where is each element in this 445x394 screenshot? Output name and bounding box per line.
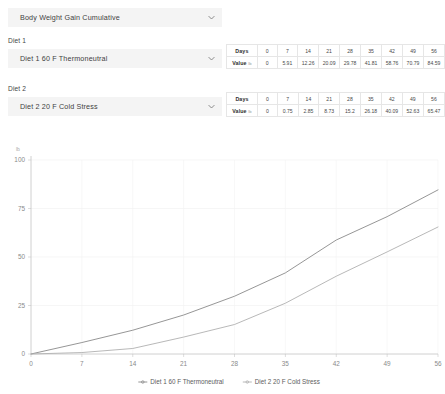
days-row-label: Days bbox=[227, 93, 258, 105]
value-cell: 40.09 bbox=[381, 105, 402, 117]
table-row-values: Value lb 00.752.858.7315.226.1840.0952.6… bbox=[227, 105, 445, 117]
value-cell: 65.47 bbox=[423, 105, 444, 117]
x-tick-label: 28 bbox=[231, 360, 239, 367]
chevron-down-icon bbox=[207, 13, 216, 22]
value-cell: 70.79 bbox=[402, 57, 423, 69]
value-cell: 15.2 bbox=[340, 105, 361, 117]
value-row-label: Value lb bbox=[227, 105, 258, 117]
days-cell: 35 bbox=[360, 93, 381, 105]
days-cell: 21 bbox=[319, 45, 340, 57]
y-tick-label: 100 bbox=[14, 156, 25, 163]
x-tick-label: 49 bbox=[384, 360, 392, 367]
diet2-select[interactable]: Diet 2 20 F Cold Stress bbox=[8, 97, 222, 116]
legend-item-1[interactable]: Diet 1 60 F Thermoneutral bbox=[138, 378, 223, 385]
days-cell: 56 bbox=[423, 45, 444, 57]
x-tick-label: 0 bbox=[29, 360, 33, 367]
legend-label: Diet 2 20 F Cold Stress bbox=[255, 378, 320, 385]
value-cell: 0 bbox=[257, 105, 277, 117]
value-cell: 26.18 bbox=[360, 105, 381, 117]
days-cell: 28 bbox=[340, 93, 361, 105]
days-cell: 42 bbox=[381, 93, 402, 105]
y-tick-label: 50 bbox=[18, 253, 26, 260]
value-cell: 5.91 bbox=[277, 57, 298, 69]
value-unit: lb bbox=[248, 61, 251, 66]
x-tick-label: 14 bbox=[129, 360, 137, 367]
value-cell: 58.76 bbox=[382, 57, 403, 69]
y-tick-label: 75 bbox=[18, 205, 26, 212]
value-cell: 12.26 bbox=[298, 57, 319, 69]
diet2-select-value: Diet 2 20 F Cold Stress bbox=[20, 102, 207, 111]
days-cell: 42 bbox=[382, 45, 403, 57]
value-cell: 0.75 bbox=[277, 105, 298, 117]
chevron-down-icon bbox=[207, 54, 216, 63]
y-axis-unit: lb bbox=[16, 146, 20, 152]
days-cell: 0 bbox=[257, 45, 277, 57]
value-cell: 84.59 bbox=[423, 57, 444, 69]
value-cell: 8.73 bbox=[319, 105, 340, 117]
days-cell: 0 bbox=[257, 93, 277, 105]
days-cell: 28 bbox=[340, 45, 361, 57]
days-cell: 7 bbox=[277, 45, 298, 57]
days-cell: 49 bbox=[402, 45, 423, 57]
days-cell: 14 bbox=[298, 45, 319, 57]
days-cell: 35 bbox=[361, 45, 382, 57]
x-tick-label: 56 bbox=[434, 360, 442, 367]
days-cell: 56 bbox=[423, 93, 444, 105]
table-row-values: Value lb 05.9112.2620.0929.7841.8158.767… bbox=[227, 57, 445, 69]
diet2-data-table: Days 0714212835424956 Value lb 00.752.85… bbox=[226, 92, 445, 117]
days-cell: 14 bbox=[298, 93, 319, 105]
x-tick-label: 21 bbox=[180, 360, 188, 367]
days-cell: 21 bbox=[319, 93, 340, 105]
diet1-data-table: Days 0714212835424956 Value lb 05.9112.2… bbox=[226, 44, 445, 69]
diet1-group-label: Diet 1 bbox=[4, 37, 26, 44]
y-tick-label: 0 bbox=[21, 350, 25, 357]
value-cell: 0 bbox=[257, 57, 277, 69]
diet1-select-value: Diet 1 60 F Thermoneutral bbox=[20, 54, 207, 63]
y-tick-label: 25 bbox=[18, 302, 26, 309]
value-unit: lb bbox=[248, 109, 251, 114]
chart-svg: lb02550751000714212835424956Diet 1 60 F … bbox=[0, 138, 445, 394]
metric-select[interactable]: Body Weight Gain Cumulative bbox=[8, 8, 222, 27]
x-tick-label: 42 bbox=[333, 360, 341, 367]
table-row-days: Days 0714212835424956 bbox=[227, 93, 445, 105]
legend-item-2[interactable]: Diet 2 20 F Cold Stress bbox=[243, 378, 320, 385]
value-cell: 29.78 bbox=[340, 57, 361, 69]
x-tick-label: 35 bbox=[282, 360, 290, 367]
chevron-down-icon bbox=[207, 102, 216, 111]
value-cell: 41.81 bbox=[361, 57, 382, 69]
value-cell: 52.63 bbox=[402, 105, 423, 117]
diet2-group-label: Diet 2 bbox=[4, 85, 26, 92]
metric-select-value: Body Weight Gain Cumulative bbox=[20, 13, 207, 22]
app-root: Body Weight Gain Cumulative Diet 1 Diet … bbox=[0, 0, 445, 394]
diet1-select[interactable]: Diet 1 60 F Thermoneutral bbox=[8, 49, 222, 68]
value-row-label: Value lb bbox=[227, 57, 258, 69]
x-tick-label: 7 bbox=[80, 360, 84, 367]
days-cell: 49 bbox=[402, 93, 423, 105]
days-row-label: Days bbox=[227, 45, 258, 57]
legend-label: Diet 1 60 F Thermoneutral bbox=[150, 378, 223, 385]
value-cell: 2.85 bbox=[298, 105, 319, 117]
value-cell: 20.09 bbox=[319, 57, 340, 69]
table-row-days: Days 0714212835424956 bbox=[227, 45, 445, 57]
line-chart: lb02550751000714212835424956Diet 1 60 F … bbox=[0, 138, 445, 394]
days-cell: 7 bbox=[277, 93, 298, 105]
